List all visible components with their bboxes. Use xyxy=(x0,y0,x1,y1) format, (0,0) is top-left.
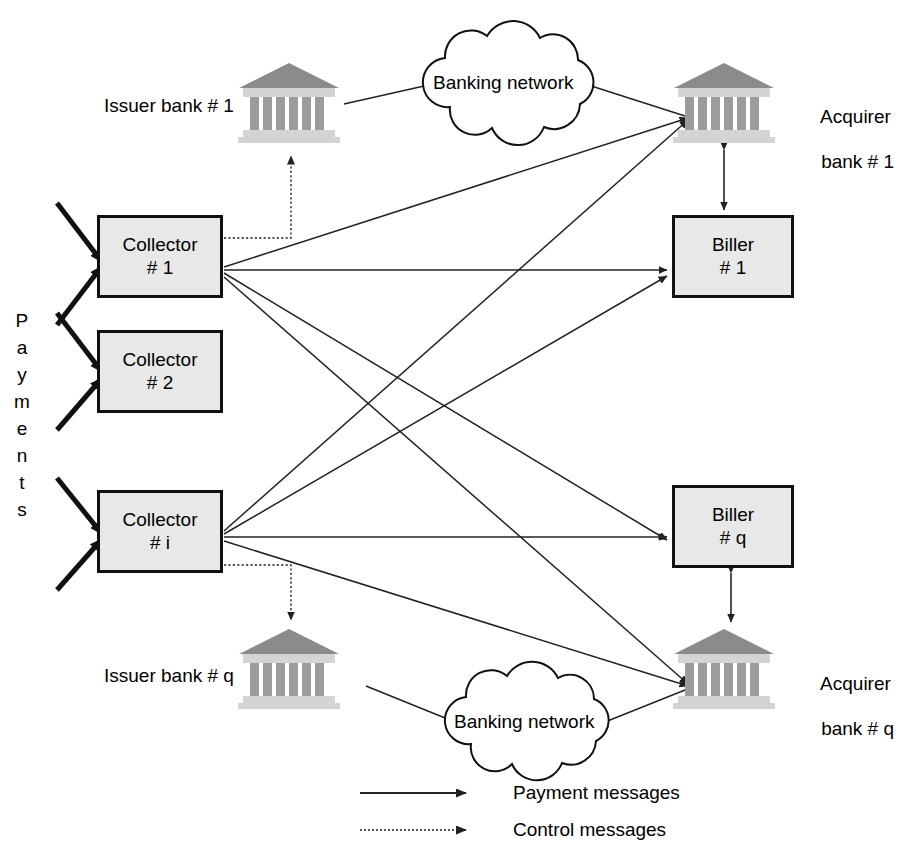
banking-network-top-label: Banking network xyxy=(433,72,573,94)
biller-1-label-line1: Biller xyxy=(712,234,754,256)
biller-q-label-line1: Biller xyxy=(712,504,754,526)
biller-1-box[interactable]: Biller # 1 xyxy=(672,215,794,298)
diagram-canvas: Collector # 1 Collector # 2 Collector # … xyxy=(0,0,901,862)
collector1-payment-links xyxy=(224,118,688,684)
acquirer-bank-1-label: Acquirer bank # 1 xyxy=(800,83,894,197)
collector-2-label-line2: # 2 xyxy=(147,372,173,394)
collector-2-label-line1: Collector xyxy=(123,349,198,371)
payments-letter: t xyxy=(19,470,24,497)
legend-control-messages-label: Control messages xyxy=(513,819,666,841)
acquirer-bank-q-label-line1: Acquirer xyxy=(820,673,891,694)
payment-input-arrows xyxy=(57,203,102,590)
banking-network-links xyxy=(344,84,690,722)
collector-2-box[interactable]: Collector # 2 xyxy=(97,330,223,413)
collector-i-label-line1: Collector xyxy=(123,509,198,531)
payments-letter: a xyxy=(17,335,28,362)
acquirer-bank-q-icon xyxy=(672,627,776,711)
payments-letter: m xyxy=(14,389,30,416)
payments-letter: P xyxy=(16,308,29,335)
legend-arrows xyxy=(360,793,466,830)
acquirer-bank-q-label: Acquirer bank # q xyxy=(800,650,894,764)
payments-letter: n xyxy=(17,443,28,470)
acquirer-bank-q-label-line2: bank # q xyxy=(821,718,894,739)
banking-network-bottom-label: Banking network xyxy=(454,711,594,733)
collectori-payment-links xyxy=(224,120,688,686)
collector-1-label-line2: # 1 xyxy=(147,257,173,279)
acquirer-bank-1-label-line2: bank # 1 xyxy=(821,151,894,172)
collector-1-box[interactable]: Collector # 1 xyxy=(97,215,223,298)
biller-q-box[interactable]: Biller # q xyxy=(672,485,794,568)
issuer-bank-1-label: Issuer bank # 1 xyxy=(104,95,234,118)
payments-label: P a y m e n t s xyxy=(14,308,30,524)
biller-q-label-line2: # q xyxy=(720,527,746,549)
collector-1-label-line1: Collector xyxy=(123,234,198,256)
collector-i-label-line2: # i xyxy=(150,532,170,554)
issuer-bank-q-label: Issuer bank # q xyxy=(104,665,234,688)
payments-letter: s xyxy=(17,497,27,524)
acquirer-bank-1-label-line1: Acquirer xyxy=(820,106,891,127)
control-message-links xyxy=(224,156,291,620)
payments-letter: e xyxy=(17,416,28,443)
payments-letter: y xyxy=(17,362,27,389)
issuer-bank-1-icon xyxy=(237,61,341,145)
acquirer-bank-1-icon xyxy=(672,61,776,145)
biller-1-label-line2: # 1 xyxy=(720,257,746,279)
issuer-bank-q-icon xyxy=(237,627,341,711)
legend-payment-messages-label: Payment messages xyxy=(513,782,680,804)
collector-i-box[interactable]: Collector # i xyxy=(97,490,223,573)
